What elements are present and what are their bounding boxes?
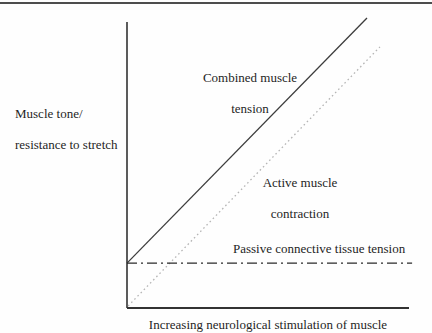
- chart-canvas: [0, 0, 432, 333]
- y-axis-label-line1: Muscle tone/: [15, 106, 83, 121]
- series-label-active-muscle-contraction: Active muscle contraction: [240, 175, 360, 222]
- series-line-combined-muscle-tension: [127, 18, 367, 263]
- y-axis-label-line2: resistance to stretch: [15, 137, 118, 152]
- series-label-passive-connective-tissue-tension: Passive connective tissue tension: [233, 241, 405, 257]
- chart-figure: Muscle tone/ resistance to stretch Combi…: [0, 0, 432, 333]
- series-label-combined-muscle-tension: Combined muscle tension: [190, 70, 310, 117]
- y-axis-label: Muscle tone/ resistance to stretch: [15, 106, 135, 153]
- x-axis-label: Increasing neurological stimulation of m…: [127, 317, 409, 333]
